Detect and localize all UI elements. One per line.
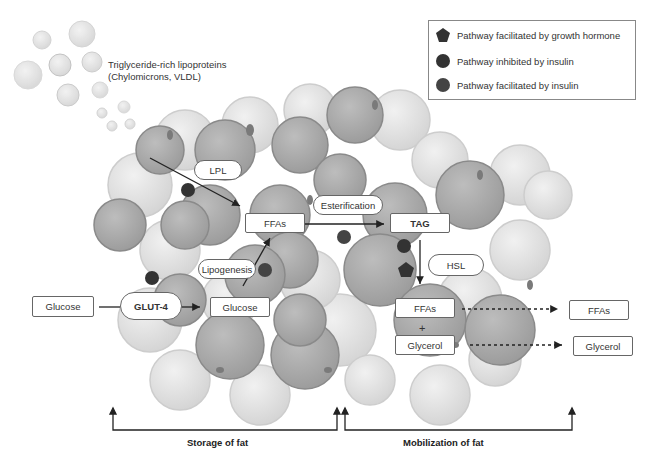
ffas-released-node: FFAs bbox=[395, 298, 455, 318]
legend-label: Pathway facilitated by insulin bbox=[457, 80, 578, 91]
legend-item-growth-hormone: Pathway facilitated by growth hormone bbox=[435, 27, 620, 43]
legend-item-insulin-facilitated: Pathway facilitated by insulin bbox=[435, 77, 578, 93]
ffas-storage-node: FFAs bbox=[245, 213, 305, 233]
lipoprotein-label-line2: (Chylomicrons, VLDL) bbox=[108, 71, 226, 83]
circle-dark-icon bbox=[435, 53, 451, 69]
tag-node: TAG bbox=[390, 213, 450, 233]
glut4-transporter-node: GLUT-4 bbox=[120, 292, 182, 320]
glucose-intracellular-node: Glucose bbox=[210, 297, 270, 317]
insulin-inhibited-marker-icon bbox=[397, 239, 411, 253]
insulin-inhibited-marker-icon bbox=[145, 271, 159, 285]
legend-label: Pathway facilitated by growth hormone bbox=[457, 30, 620, 41]
lpl-node: LPL bbox=[194, 160, 242, 180]
lipogenesis-node: Lipogenesis bbox=[198, 259, 256, 279]
section-brackets bbox=[110, 408, 575, 430]
insulin-facilitated-marker-icon bbox=[337, 230, 351, 244]
lipoprotein-label: Triglyceride-rich lipoproteins (Chylomic… bbox=[108, 59, 226, 83]
plus-sign: + bbox=[419, 322, 425, 334]
storage-of-fat-label: Storage of fat bbox=[187, 437, 248, 448]
ffas-circulation-node: FFAs bbox=[569, 300, 629, 320]
hsl-node: HSL bbox=[428, 254, 484, 276]
pentagon-icon bbox=[435, 27, 451, 43]
glycerol-circulation-node: Glycerol bbox=[573, 336, 633, 356]
insulin-facilitated-marker-icon bbox=[258, 263, 272, 277]
mobilization-of-fat-label: Mobilization of fat bbox=[403, 437, 484, 448]
legend-label: Pathway inhibited by insulin bbox=[457, 56, 574, 67]
glycerol-released-node: Glycerol bbox=[395, 335, 455, 355]
glucose-extracellular-node: Glucose bbox=[32, 296, 94, 317]
insulin-inhibited-marker-icon bbox=[181, 183, 195, 197]
circle-medium-icon bbox=[435, 77, 451, 93]
esterification-node: Esterification bbox=[313, 195, 383, 215]
legend: Pathway facilitated by growth hormone Pa… bbox=[428, 20, 636, 100]
legend-item-insulin-inhibited: Pathway inhibited by insulin bbox=[435, 53, 574, 69]
lipoprotein-label-line1: Triglyceride-rich lipoproteins bbox=[108, 59, 226, 71]
